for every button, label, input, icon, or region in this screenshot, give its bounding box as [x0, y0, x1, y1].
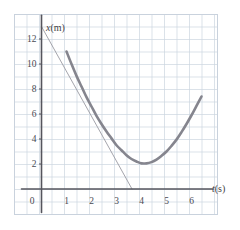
x-tick-label: 6 [189, 196, 194, 206]
y-tick-label: 2 [32, 159, 37, 169]
figure-root: 123456 24681012 0 t(s) x(m) [0, 0, 240, 230]
y-tick-label: 6 [32, 109, 37, 119]
origin-label: 0 [30, 196, 35, 206]
y-tick-label: 10 [27, 59, 37, 69]
x-axis-title-unit: (s) [215, 183, 226, 195]
y-tick-label: 12 [27, 34, 37, 44]
y-axis-title-unit: (m) [50, 22, 64, 34]
y-axis-title: x(m) [45, 22, 65, 34]
y-tick-label: 8 [32, 84, 37, 94]
x-tick-label: 5 [164, 196, 169, 206]
y-tick-label: 4 [32, 134, 37, 144]
x-tick-label: 3 [114, 196, 119, 206]
x-axis-title: t(s) [212, 183, 225, 195]
x-tick-label: 4 [139, 196, 144, 206]
x-tick-label: 2 [89, 196, 94, 206]
position-time-chart: 123456 24681012 0 t(s) x(m) [0, 0, 240, 230]
x-tick-label: 1 [64, 196, 69, 206]
